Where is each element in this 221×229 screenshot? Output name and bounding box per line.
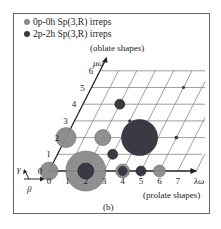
- beta-label: β: [26, 184, 32, 194]
- bubble-2p2h: [136, 166, 146, 176]
- bubble-2p2h: [129, 120, 131, 122]
- x-tick-label: 1: [65, 176, 70, 186]
- x-tick-label: 0: [47, 176, 52, 186]
- x-axis-arrowhead: [190, 168, 197, 174]
- y-tick-label: 3: [63, 116, 68, 126]
- bubble-0p0h: [95, 130, 111, 146]
- bubble-2p2h: [118, 167, 127, 176]
- x-tick-label: 2: [84, 176, 89, 186]
- x-tick-label: 6: [157, 176, 162, 186]
- bubble-2p2h: [115, 99, 125, 109]
- grid-line-slanted: [159, 81, 205, 171]
- x-tick-label: 3: [102, 176, 107, 186]
- x-tick-label: 4: [120, 176, 125, 186]
- bubble-2p2h: [108, 149, 118, 159]
- y-tick-label: 1: [46, 149, 51, 159]
- x-tick-label: 5: [139, 176, 144, 186]
- grid-line-slanted: [178, 118, 205, 171]
- x-axis-label: λω: [193, 176, 204, 186]
- bubble-2p2h: [122, 120, 158, 156]
- bubble-2p2h: [175, 136, 178, 139]
- x-tick-label: 7: [176, 176, 181, 186]
- y-axis-label: μω: [92, 58, 104, 68]
- y-tick-label: 2: [55, 133, 60, 143]
- gamma-label: γ: [17, 164, 21, 174]
- y-tick-label: 4: [72, 99, 77, 109]
- grid-line-slanted: [196, 154, 205, 171]
- bubble-plot: 012345670123456λωμωγβ: [0, 0, 221, 229]
- y-tick-label: 5: [80, 83, 85, 93]
- y-tick-label: 0: [38, 166, 43, 176]
- bubble-2p2h: [182, 86, 184, 88]
